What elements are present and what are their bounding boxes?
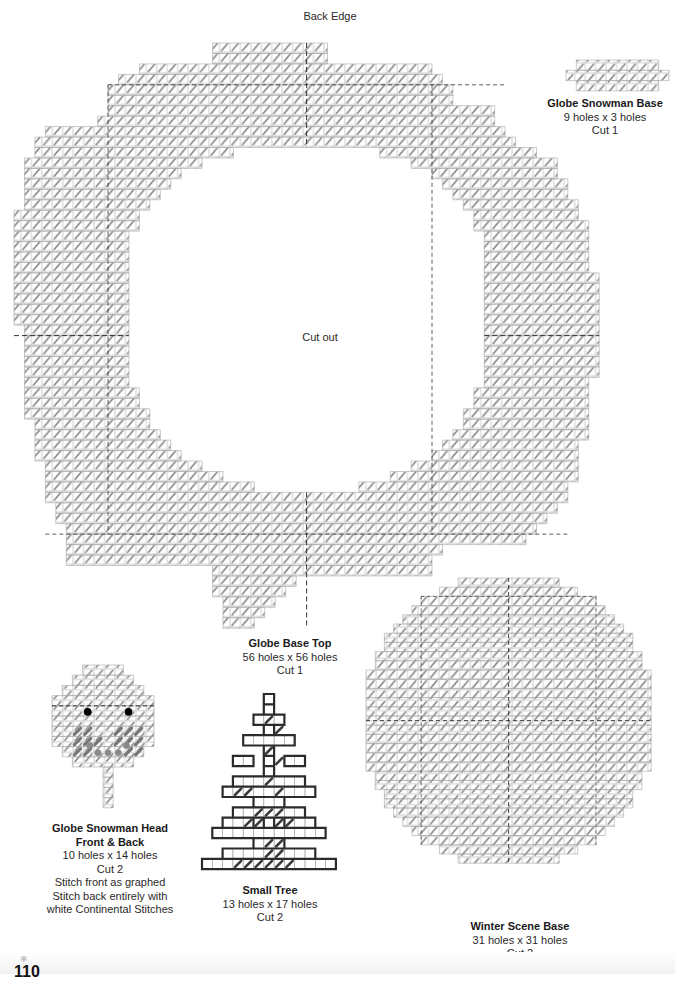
cut-out-label: Cut out	[260, 331, 380, 345]
piece-size: 31 holes x 31 holes	[445, 934, 595, 948]
piece-title: Winter Scene Base	[445, 920, 595, 934]
page-footer: ❄ 110	[0, 952, 675, 974]
globe-snowman-head-caption: Globe Snowman Head Front & Back 10 holes…	[20, 822, 200, 917]
piece-cut: Cut 1	[535, 124, 675, 138]
piece-note-3: white Continental Stitches	[20, 903, 200, 917]
piece-title: Small Tree	[205, 884, 335, 898]
piece-size: 10 holes x 14 holes	[20, 849, 200, 863]
small-tree-caption: Small Tree 13 holes x 17 holes Cut 2	[205, 884, 335, 925]
piece-size: 56 holes x 56 holes	[225, 651, 355, 665]
piece-note-1: Stitch front as graphed	[20, 876, 200, 890]
piece-title-line1: Globe Snowman Head	[20, 822, 200, 836]
page-number: 110	[14, 963, 40, 981]
globe-base-top-caption: Globe Base Top 56 holes x 56 holes Cut 1	[225, 637, 355, 678]
piece-size: 13 holes x 17 holes	[205, 898, 335, 912]
piece-cut: Cut 2	[205, 911, 335, 925]
globe-snowman-base-caption: Globe Snowman Base 9 holes x 3 holes Cut…	[535, 97, 675, 138]
piece-cut: Cut 2	[20, 863, 200, 877]
cut-out-text: Cut out	[260, 331, 380, 345]
piece-title: Globe Snowman Base	[535, 97, 675, 111]
piece-note-2: Stitch back entirely with	[20, 890, 200, 904]
back-edge-label: Back Edge	[270, 10, 390, 24]
piece-title-line2: Front & Back	[20, 836, 200, 850]
piece-cut: Cut 1	[225, 664, 355, 678]
piece-size: 9 holes x 3 holes	[535, 111, 675, 125]
piece-title: Globe Base Top	[225, 637, 355, 651]
back-edge-text: Back Edge	[270, 10, 390, 24]
